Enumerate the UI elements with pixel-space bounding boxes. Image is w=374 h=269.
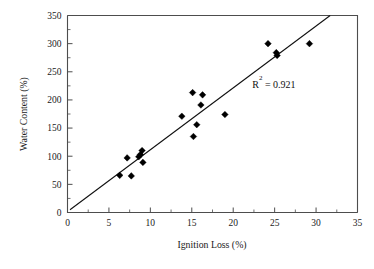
- y-tick-label: 250: [47, 67, 62, 77]
- data-point: [306, 40, 313, 47]
- x-tick-label: 15: [187, 218, 197, 228]
- x-tick-label: 0: [65, 218, 70, 228]
- y-tick-label: 50: [52, 180, 62, 190]
- y-tick-label: 350: [47, 11, 62, 21]
- data-point: [190, 133, 197, 140]
- x-axis-ticks: [68, 208, 358, 213]
- y-tick-label: 150: [47, 123, 62, 133]
- data-point: [116, 172, 123, 179]
- scatter-plot-figure: 05101520253035 050100150200250300350 R2 …: [0, 0, 374, 269]
- data-point: [193, 121, 200, 128]
- data-point: [128, 173, 135, 180]
- x-tick-label: 10: [146, 218, 156, 228]
- x-tick-label: 5: [107, 218, 112, 228]
- y-axis-tick-labels: 050100150200250300350: [47, 11, 62, 218]
- y-tick-label: 300: [47, 39, 62, 49]
- x-tick-label: 25: [270, 218, 280, 228]
- data-point: [189, 89, 196, 96]
- y-tick-label: 0: [57, 208, 62, 218]
- data-point: [124, 155, 131, 162]
- x-axis-title: Ignition Loss (%): [177, 239, 246, 251]
- x-tick-label: 20: [228, 218, 238, 228]
- y-tick-label: 100: [47, 152, 62, 162]
- axis-top-right: [68, 16, 358, 213]
- data-point: [179, 113, 186, 120]
- y-axis-title: Water Content (%): [18, 77, 30, 151]
- data-point: [198, 102, 205, 109]
- data-point: [265, 40, 272, 47]
- x-tick-label: 30: [311, 218, 321, 228]
- r-squared-annotation: R2 = 0.921: [252, 74, 295, 90]
- y-axis-ticks: [68, 16, 73, 213]
- x-axis-tick-labels: 05101520253035: [65, 218, 362, 228]
- data-point: [222, 111, 229, 118]
- y-tick-label: 200: [47, 95, 62, 105]
- data-point: [199, 92, 206, 99]
- data-point-markers: [116, 40, 312, 179]
- regression-line: [70, 16, 330, 210]
- x-tick-label: 35: [353, 218, 363, 228]
- axes-frame: [68, 16, 358, 213]
- plot-canvas: 05101520253035 050100150200250300350 R2 …: [0, 0, 374, 269]
- axis-left-bottom: [68, 16, 358, 213]
- data-point: [140, 159, 147, 166]
